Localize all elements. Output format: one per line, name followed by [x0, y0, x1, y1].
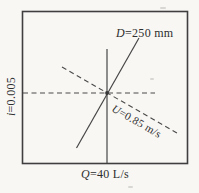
- discharge-label: Q=40 L/s: [22, 167, 188, 182]
- diameter-value: =250 mm: [125, 26, 174, 40]
- discharge-value: =40 L/s: [90, 167, 129, 181]
- figure-canvas: D=250 mm i=0.005 U=0.85 m/s Q=40 L/s: [0, 0, 199, 193]
- diameter-symbol: D: [116, 26, 125, 40]
- gradient-symbol: i: [4, 112, 18, 116]
- solution-point: [105, 91, 109, 95]
- scan-speckle: [150, 78, 154, 80]
- hydraulic-gradient-label: i=0.005: [4, 64, 19, 130]
- gradient-value: =0.005: [4, 77, 18, 113]
- discharge-symbol: Q: [81, 167, 90, 181]
- diameter-label: D=250 mm: [116, 26, 174, 41]
- scan-speckle: [128, 186, 133, 188]
- scan-speckle: [160, 7, 166, 9]
- velocity-line: [62, 67, 177, 133]
